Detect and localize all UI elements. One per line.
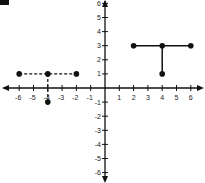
y-tick-label: 2 bbox=[97, 56, 101, 63]
x-tick-label: -1 bbox=[87, 94, 93, 101]
x-tick-label: -5 bbox=[29, 94, 35, 101]
x-axis-right-arrow-icon bbox=[197, 85, 204, 91]
x-tick-label: 5 bbox=[175, 94, 179, 101]
y-tick-label: -6 bbox=[95, 169, 101, 176]
y-tick-label: 5 bbox=[97, 14, 101, 21]
coordinate-plane: -6-5-4-3-2-1123456654321-1-2-3-4-5-6 bbox=[0, 0, 205, 183]
data-point bbox=[131, 43, 137, 49]
data-point bbox=[16, 71, 22, 77]
y-tick-label: 1 bbox=[97, 70, 101, 77]
data-point bbox=[45, 99, 51, 105]
y-tick-label: -2 bbox=[95, 113, 101, 120]
y-tick-label: -3 bbox=[95, 127, 101, 134]
y-tick-label: -4 bbox=[95, 141, 101, 148]
data-point bbox=[159, 71, 165, 77]
y-tick-label: 6 bbox=[97, 0, 101, 7]
x-tick-label: 1 bbox=[117, 94, 121, 101]
x-tick-label: 2 bbox=[132, 94, 136, 101]
x-tick-label: 3 bbox=[146, 94, 150, 101]
axes bbox=[2, 0, 204, 183]
x-tick-label: 6 bbox=[189, 94, 193, 101]
data-point bbox=[74, 71, 80, 77]
y-axis-down-arrow-icon bbox=[102, 176, 108, 183]
data-point bbox=[159, 43, 165, 49]
y-tick-label: 4 bbox=[97, 28, 101, 35]
data-point bbox=[45, 71, 51, 77]
y-tick-label: 3 bbox=[97, 42, 101, 49]
x-tick-label: -3 bbox=[58, 94, 64, 101]
y-tick-label: -5 bbox=[95, 155, 101, 162]
x-tick-label: 4 bbox=[160, 94, 164, 101]
data-point bbox=[188, 43, 194, 49]
x-axis-left-arrow-icon bbox=[2, 85, 9, 91]
x-tick-label: -6 bbox=[15, 94, 21, 101]
x-tick-label: -2 bbox=[72, 94, 78, 101]
y-tick-label: -1 bbox=[95, 99, 101, 106]
